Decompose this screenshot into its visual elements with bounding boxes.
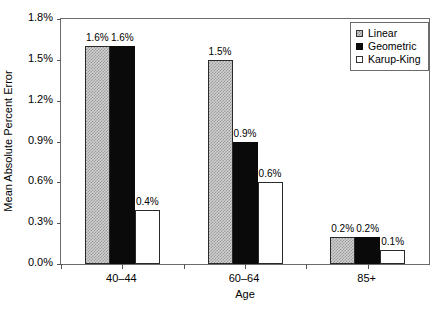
bar-linear-2 [330,237,355,264]
x-tick-mark [306,264,307,269]
bar-value-label: 0.1% [381,236,404,247]
y-tick-mark [57,60,61,61]
y-tick-label: 1.5% [28,52,53,64]
y-tick-label: 1.2% [28,93,53,105]
bar-value-label: 0.9% [234,128,257,139]
bar-value-label: 0.4% [136,196,159,207]
y-tick-mark [57,182,61,183]
x-axis-category-label: 85+ [357,272,376,284]
y-tick-label: 0.3% [28,215,53,227]
x-axis-category-label: 60–64 [229,272,260,284]
bar-value-label: 0.2% [331,223,354,234]
bar-karup-king-2 [380,250,405,264]
bar-karup-king-1 [258,182,283,264]
x-axis-category-label: 40–44 [106,272,137,284]
y-tick-mark [57,19,61,20]
bar-value-label: 1.5% [209,46,232,57]
x-axis-title: Age [60,288,430,300]
legend-swatch-icon [356,30,363,37]
legend-label: Geometric [368,40,416,53]
y-tick-mark [57,223,61,224]
bar-geometric-1 [233,142,258,265]
legend-label: Linear [368,27,397,40]
bar-linear-1 [208,60,233,264]
bar-linear-0 [85,46,110,264]
x-tick-mark [368,264,369,269]
bar-value-label: 0.2% [356,223,379,234]
legend-swatch-icon [356,43,363,50]
bar-geometric-0 [110,46,135,264]
chart-legend: LinearGeometricKarup-King [350,22,429,71]
y-tick-mark [57,142,61,143]
x-tick-mark [61,264,62,269]
x-tick-mark [122,264,123,269]
y-tick-label: 0.9% [28,134,53,146]
y-tick-label: 1.8% [28,11,53,23]
legend-swatch-icon [356,56,363,63]
y-tick-label: 0.0% [28,256,53,268]
bar-value-label: 1.6% [111,32,134,43]
y-tick-label: 0.6% [28,174,53,186]
bar-karup-king-0 [135,210,160,264]
legend-item-linear[interactable]: Linear [356,27,421,40]
bar-geometric-2 [355,237,380,264]
legend-item-karup-king[interactable]: Karup-King [356,53,421,66]
chart-figure: Mean Absolute Percent Error 0.0%0.3%0.6%… [0,0,444,311]
x-tick-mark [184,264,185,269]
legend-label: Karup-King [368,53,421,66]
y-axis-title-text: Mean Absolute Percent Error [0,0,16,286]
bar-value-label: 0.6% [259,168,282,179]
legend-item-geometric[interactable]: Geometric [356,40,421,53]
y-tick-mark [57,101,61,102]
x-tick-mark [245,264,246,269]
bar-value-label: 1.6% [86,32,109,43]
